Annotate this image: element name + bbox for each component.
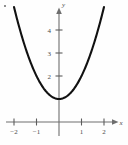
x-axis-arrow-icon bbox=[112, 119, 119, 125]
x-axis-label: x bbox=[118, 119, 123, 127]
x-tick-label-2: 2 bbox=[102, 128, 106, 136]
figure-container: −2 −1 1 2 2 3 4 x y bbox=[0, 0, 128, 145]
y-tick-label-3: 3 bbox=[48, 50, 52, 58]
y-tick-label-4: 4 bbox=[48, 27, 52, 35]
parabola-plot: −2 −1 1 2 2 3 4 x y bbox=[0, 0, 128, 145]
x-tick-label-neg2: −2 bbox=[10, 128, 18, 136]
y-tick-label-2: 2 bbox=[48, 73, 52, 81]
x-tick-label-1: 1 bbox=[80, 128, 84, 136]
x-tick-label-neg1: −1 bbox=[33, 128, 41, 136]
y-axis-label: y bbox=[61, 1, 66, 9]
